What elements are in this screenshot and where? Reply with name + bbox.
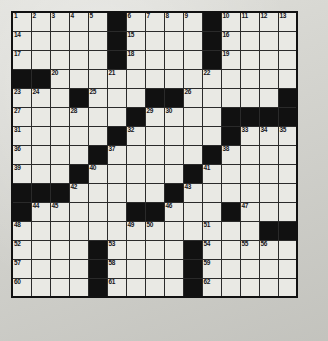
crossword-cell[interactable] [259,50,278,69]
crossword-cell[interactable]: 59 [202,259,221,278]
crossword-cell[interactable] [107,221,126,240]
crossword-cell[interactable] [259,202,278,221]
crossword-cell[interactable] [164,50,183,69]
crossword-cell[interactable] [221,278,240,297]
crossword-cell[interactable] [88,183,107,202]
crossword-cell[interactable] [164,259,183,278]
crossword-cell[interactable] [126,240,145,259]
crossword-cell[interactable] [31,126,50,145]
crossword-cell[interactable] [31,145,50,164]
crossword-cell[interactable] [240,278,259,297]
crossword-cell[interactable] [126,259,145,278]
crossword-cell[interactable] [126,145,145,164]
crossword-cell[interactable]: 57 [12,259,31,278]
crossword-cell[interactable] [145,126,164,145]
crossword-cell[interactable] [88,126,107,145]
crossword-cell[interactable]: 56 [259,240,278,259]
crossword-cell[interactable] [50,259,69,278]
crossword-cell[interactable] [240,164,259,183]
crossword-cell[interactable] [31,50,50,69]
crossword-cell[interactable] [88,31,107,50]
crossword-cell[interactable] [50,50,69,69]
crossword-cell[interactable]: 26 [183,88,202,107]
crossword-cell[interactable]: 2 [31,12,50,31]
crossword-cell[interactable] [164,69,183,88]
crossword-cell[interactable]: 45 [50,202,69,221]
crossword-cell[interactable]: 4 [69,12,88,31]
crossword-cell[interactable] [69,126,88,145]
crossword-cell[interactable]: 15 [126,31,145,50]
crossword-cell[interactable] [259,145,278,164]
crossword-cell[interactable] [164,240,183,259]
crossword-cell[interactable] [278,278,297,297]
crossword-cell[interactable]: 51 [202,221,221,240]
crossword-cell[interactable] [126,164,145,183]
crossword-cell[interactable] [31,31,50,50]
crossword-cell[interactable]: 31 [12,126,31,145]
crossword-cell[interactable] [259,31,278,50]
crossword-cell[interactable] [50,88,69,107]
crossword-cell[interactable] [164,164,183,183]
crossword-cell[interactable]: 33 [240,126,259,145]
crossword-cell[interactable] [221,164,240,183]
crossword-cell[interactable] [259,183,278,202]
crossword-cell[interactable]: 16 [221,31,240,50]
crossword-cell[interactable] [145,69,164,88]
crossword-cell[interactable]: 9 [183,12,202,31]
crossword-cell[interactable] [221,183,240,202]
crossword-cell[interactable]: 39 [12,164,31,183]
crossword-cell[interactable]: 20 [50,69,69,88]
crossword-cell[interactable] [278,50,297,69]
crossword-cell[interactable]: 25 [88,88,107,107]
crossword-cell[interactable] [145,278,164,297]
crossword-cell[interactable] [88,69,107,88]
crossword-cell[interactable] [31,107,50,126]
crossword-cell[interactable]: 55 [240,240,259,259]
crossword-cell[interactable] [221,69,240,88]
crossword-cell[interactable]: 44 [31,202,50,221]
crossword-cell[interactable] [50,240,69,259]
crossword-cell[interactable] [183,221,202,240]
crossword-cell[interactable] [88,50,107,69]
crossword-cell[interactable] [31,240,50,259]
crossword-cell[interactable] [145,240,164,259]
crossword-cell[interactable] [240,31,259,50]
crossword-cell[interactable]: 62 [202,278,221,297]
crossword-cell[interactable]: 8 [164,12,183,31]
crossword-cell[interactable] [50,107,69,126]
crossword-cell[interactable] [107,202,126,221]
crossword-cell[interactable] [240,145,259,164]
crossword-cell[interactable] [164,126,183,145]
crossword-cell[interactable] [107,183,126,202]
crossword-cell[interactable] [145,183,164,202]
crossword-cell[interactable] [145,31,164,50]
crossword-cell[interactable] [202,183,221,202]
crossword-cell[interactable] [69,221,88,240]
crossword-cell[interactable] [164,145,183,164]
crossword-cell[interactable] [164,221,183,240]
crossword-cell[interactable] [183,69,202,88]
crossword-cell[interactable] [164,31,183,50]
crossword-cell[interactable]: 22 [202,69,221,88]
crossword-cell[interactable] [202,202,221,221]
crossword-cell[interactable] [69,202,88,221]
crossword-cell[interactable] [69,50,88,69]
crossword-cell[interactable] [221,88,240,107]
crossword-cell[interactable]: 41 [202,164,221,183]
crossword-cell[interactable] [164,278,183,297]
crossword-cell[interactable] [278,69,297,88]
crossword-cell[interactable] [50,278,69,297]
crossword-cell[interactable] [69,240,88,259]
crossword-cell[interactable]: 28 [69,107,88,126]
crossword-cell[interactable] [50,126,69,145]
crossword-cell[interactable]: 5 [88,12,107,31]
crossword-cell[interactable] [278,164,297,183]
crossword-cell[interactable] [69,31,88,50]
crossword-cell[interactable]: 58 [107,259,126,278]
crossword-cell[interactable] [259,164,278,183]
crossword-cell[interactable]: 12 [259,12,278,31]
crossword-cell[interactable] [202,88,221,107]
crossword-cell[interactable] [126,69,145,88]
crossword-cell[interactable]: 27 [12,107,31,126]
crossword-cell[interactable] [31,278,50,297]
